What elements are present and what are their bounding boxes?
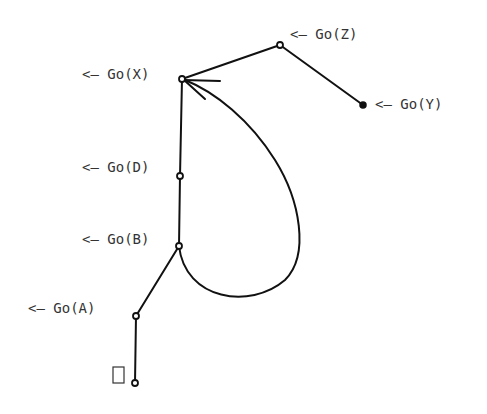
node-x (179, 76, 185, 82)
arrowhead-line-lower (184, 80, 205, 99)
node-z (277, 42, 283, 48)
label-go-z: <— Go(Z) (290, 26, 357, 42)
node-y (360, 102, 366, 108)
node-root (132, 380, 138, 386)
label-go-b: <— Go(B) (82, 231, 149, 247)
search-tree-diagram: <— Go(Z) <— Go(X) <— Go(Y) <— Go(D) <— G… (0, 0, 487, 414)
edge-z-x (182, 45, 280, 79)
node-a (133, 313, 139, 319)
label-go-y: <— Go(Y) (375, 96, 442, 112)
node-b (176, 243, 182, 249)
arrowhead-line-upper (184, 80, 220, 81)
label-go-x: <— Go(X) (82, 66, 149, 82)
edge-d-b (179, 176, 180, 246)
cursor-box-icon (113, 367, 124, 383)
edge-x-d (180, 79, 182, 176)
node-d (177, 173, 183, 179)
edge-a-root (135, 316, 136, 383)
edge-b-a (136, 246, 179, 316)
edge-z-y (280, 45, 363, 105)
loop-arrow-b-to-x (179, 80, 299, 297)
label-go-a: <— Go(A) (28, 300, 95, 316)
label-go-d: <— Go(D) (82, 159, 149, 175)
